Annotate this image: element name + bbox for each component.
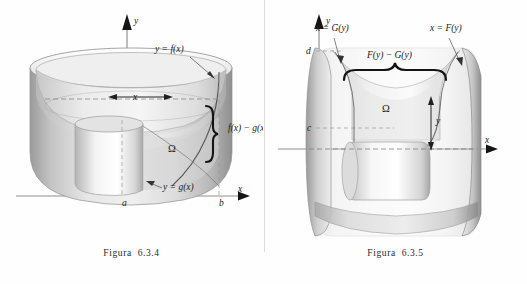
figure-left-graphic: y = f(x) y = g(x) Ω x f(x) − g(x) a b y …	[0, 0, 263, 245]
label-tick-d: d	[306, 46, 311, 56]
label-x-axis: x	[237, 184, 243, 194]
label-region-omega: Ω	[168, 143, 176, 154]
figure-right-caption: Figura 6.3.5	[264, 248, 527, 258]
x-axis-arrowhead	[486, 145, 498, 154]
label-curve-f: y = f(x)	[154, 44, 184, 55]
label-curve-G: x = G(y)	[315, 23, 349, 34]
label-tick-a: a	[122, 198, 127, 208]
figure-right-graphic: x = G(y) x = F(y) F(y) − G(y) Ω y d c y …	[264, 0, 527, 245]
label-tick-b: b	[219, 198, 224, 208]
label-y-axis: y	[133, 16, 139, 26]
figure-panel-left: y = f(x) y = g(x) Ω x f(x) − g(x) a b y …	[0, 0, 263, 284]
label-curve-F: x = F(y)	[429, 23, 462, 34]
inner-core-cylinder	[75, 116, 143, 195]
label-height-difference: f(x) − g(x)	[228, 123, 263, 134]
label-y-axis: y	[325, 16, 331, 26]
figure-panel-right: x = G(y) x = F(y) F(y) − G(y) Ω y d c y …	[264, 0, 527, 284]
label-radius-y: y	[435, 116, 441, 126]
label-radius-x: x	[132, 92, 138, 102]
label-region-omega: Ω	[382, 103, 390, 114]
y-axis-arrowhead	[122, 14, 132, 30]
label-curve-g: y = g(x)	[162, 182, 194, 193]
figure-sheet: y = f(x) y = g(x) Ω x f(x) − g(x) a b y …	[0, 0, 527, 284]
inner-core-cylinder	[342, 142, 430, 200]
figure-left-caption: Figura 6.3.4	[0, 248, 263, 258]
label-x-axis: x	[484, 135, 490, 145]
label-width-difference: F(y) − G(y)	[366, 50, 412, 61]
